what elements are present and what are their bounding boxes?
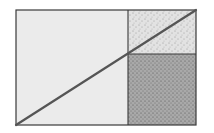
geometric-diagram <box>0 0 214 133</box>
left-region <box>16 10 128 125</box>
bottom-right-stipple <box>128 54 196 125</box>
